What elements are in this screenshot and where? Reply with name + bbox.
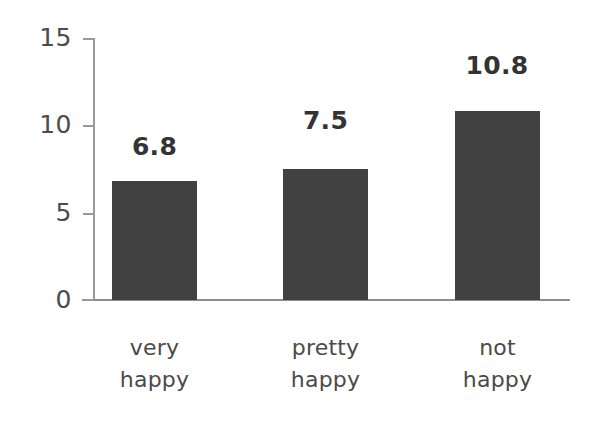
y-axis-tick-10 bbox=[83, 125, 94, 127]
y-axis-label-10-wrap: 10 bbox=[0, 112, 72, 138]
y-axis-label-5: 5 bbox=[0, 200, 72, 225]
y-axis-label-0-wrap: 0 bbox=[0, 287, 72, 313]
category-label-very-happy-line2: happy bbox=[94, 364, 215, 396]
y-axis-line bbox=[93, 38, 95, 301]
bar-pretty-happy bbox=[283, 169, 368, 300]
y-axis-label-15: 15 bbox=[0, 25, 72, 50]
category-label-pretty-happy-line1: pretty bbox=[265, 332, 386, 364]
value-label-pretty-happy: 7.5 bbox=[283, 108, 368, 133]
y-axis-tick-0 bbox=[83, 299, 94, 301]
y-axis-label-0: 0 bbox=[0, 287, 72, 312]
category-label-not-happy-line1: not bbox=[437, 332, 558, 364]
bar-not-happy bbox=[455, 111, 540, 300]
category-label-very-happy-line1: very bbox=[94, 332, 215, 364]
value-label-very-happy: 6.8 bbox=[112, 134, 197, 159]
category-label-pretty-happy: pretty happy bbox=[265, 332, 386, 396]
category-label-not-happy-line2: happy bbox=[437, 364, 558, 396]
category-label-very-happy: very happy bbox=[94, 332, 215, 396]
y-axis-tick-5 bbox=[83, 213, 94, 215]
bar-chart: 15 10 5 0 6.8 7.5 10.8 very happy pretty… bbox=[0, 0, 598, 424]
value-label-not-happy: 10.8 bbox=[447, 53, 547, 78]
y-axis-label-5-wrap: 5 bbox=[0, 200, 72, 226]
y-axis-label-10: 10 bbox=[0, 112, 72, 137]
category-label-not-happy: not happy bbox=[437, 332, 558, 396]
y-axis-label-15-wrap: 15 bbox=[0, 25, 72, 51]
category-label-pretty-happy-line2: happy bbox=[265, 364, 386, 396]
y-axis-tick-15 bbox=[83, 38, 94, 40]
bar-very-happy bbox=[112, 181, 197, 300]
